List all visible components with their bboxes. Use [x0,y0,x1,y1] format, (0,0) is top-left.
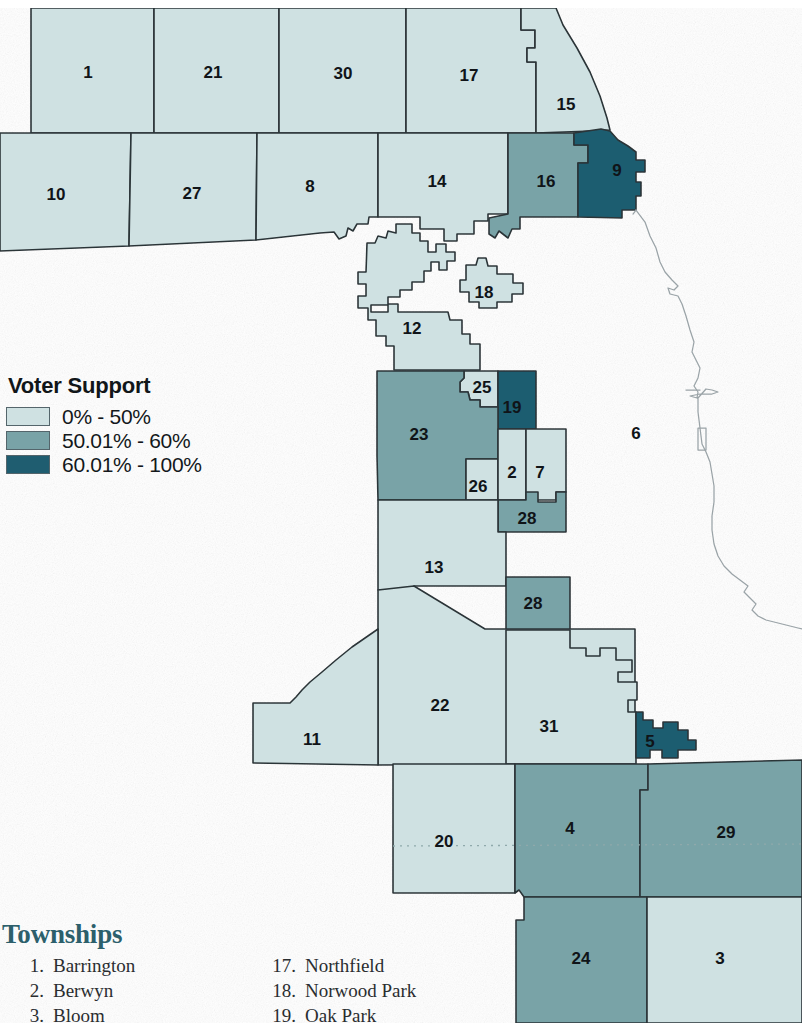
region-label-8: 8 [305,177,314,196]
region-label-11: 11 [303,730,321,749]
region-9 [574,129,645,218]
region-label-5: 5 [645,732,654,751]
region-label-27: 27 [183,184,202,203]
township-name: Berwyn [53,978,113,1003]
township-list-item: 19.Oak Park [262,1003,602,1023]
region-label-1: 1 [83,63,92,82]
township-name: Norwood Park [305,978,416,1003]
legend-title: Voter Support [8,374,246,397]
region-12 [358,224,480,370]
townships-legend: Townships 1.Barrington2.Berwyn3.Bloom 17… [0,921,802,1023]
region-label-14: 14 [428,172,447,191]
region-label-25: 25 [473,378,492,397]
region-label-22: 22 [431,696,450,715]
region-label-12: 12 [403,319,422,338]
region-8 [256,133,378,240]
region-label-4: 4 [565,819,575,838]
region-label-13: 13 [425,558,444,577]
townships-heading: Townships [2,921,802,949]
township-name: Barrington [53,953,135,978]
region-label-9: 9 [612,161,621,180]
township-name: Oak Park [305,1003,376,1023]
townships-column-left: 1.Barrington2.Berwyn3.Bloom [0,953,248,1023]
legend-swatch-high [6,455,50,474]
township-number: 19. [262,1003,296,1023]
region-label-6: 6 [631,424,640,443]
legend-item-high: 60.01% - 100% [6,454,246,475]
township-number: 17. [262,953,296,978]
region-10 [0,133,131,251]
region-label-10: 10 [47,185,66,204]
township-list-item: 2.Berwyn [10,978,248,1003]
region-label-15: 15 [557,95,576,114]
township-list-item: 3.Bloom [10,1003,248,1023]
region-7 [526,429,566,500]
township-list-item: 17.Northfield [262,953,602,978]
region-label-2: 2 [507,463,516,482]
legend-item-mid: 50.01% - 60% [6,430,246,451]
region-label-17: 17 [460,66,479,85]
legend-swatch-mid [6,431,50,450]
region-label-16: 16 [537,172,556,191]
legend-item-low: 0% - 50% [6,406,246,427]
township-list-item: 1.Barrington [10,953,248,978]
township-list-item: 18.Norwood Park [262,978,602,1003]
region-4 [515,764,648,897]
legend: Voter Support 0% - 50% 50.01% - 60% 60.0… [6,374,246,478]
choropleth-map-svg: 1213017159102781416181225192362627281328… [0,0,802,1023]
township-number: 18. [262,978,296,1003]
region-13 [378,500,506,590]
regions-layer [0,8,802,1023]
region-20 [393,764,515,893]
region-label-30: 30 [334,64,353,83]
region-label-23: 23 [410,425,429,444]
legend-swatch-low [6,407,50,426]
township-number: 3. [10,1003,44,1023]
legend-label-high: 60.01% - 100% [62,454,202,475]
region-label-31: 31 [540,717,559,736]
region-label-21: 21 [204,63,223,82]
region-label-20: 20 [435,832,454,851]
legend-label-mid: 50.01% - 60% [62,430,190,451]
region-label-19: 19 [503,398,522,417]
region-label-28a: 28 [518,509,537,528]
region-label-29: 29 [717,823,736,842]
region-label-7: 7 [535,463,544,482]
map-root: 1213017159102781416181225192362627281328… [0,0,802,1023]
township-number: 1. [10,953,44,978]
region-label-28b: 28 [524,594,543,613]
townships-columns: 1.Barrington2.Berwyn3.Bloom 17.Northfiel… [0,953,802,1023]
legend-label-low: 0% - 50% [62,406,151,427]
township-name: Bloom [53,1003,105,1023]
region-label-18: 18 [475,283,494,302]
townships-column-right: 17.Northfield18.Norwood Park19.Oak Park [248,953,602,1023]
township-name: Northfield [305,953,384,978]
region-label-26: 26 [469,477,488,496]
lake-michigan-shoreline [633,210,802,629]
township-number: 2. [10,978,44,1003]
